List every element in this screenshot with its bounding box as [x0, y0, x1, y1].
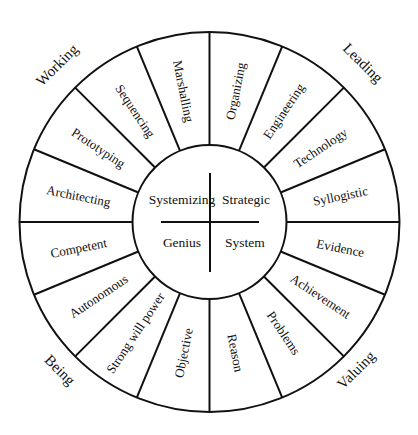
segment-label: Objective	[171, 326, 196, 379]
segment-label: Autonomous	[66, 271, 130, 321]
segment-label: Evidence	[315, 236, 366, 260]
outer-quadrant-label: Being	[42, 352, 79, 389]
core-quadrant-label: Strategic	[222, 192, 270, 207]
core-quadrant-label: Systemizing	[149, 192, 216, 207]
segment-label: Syllogistic	[312, 183, 370, 209]
segment-label: Reason	[224, 333, 246, 374]
segment-label: Architecting	[45, 182, 112, 209]
core-quadrant-label: System	[225, 235, 265, 250]
segment-label: Strong will power	[103, 289, 168, 376]
segment-label: Engineering	[260, 80, 308, 142]
segment-label: Marshalling	[170, 59, 197, 124]
core-quadrant-label: Genius	[163, 235, 201, 250]
outer-quadrant-label: Working	[33, 41, 82, 90]
segment-label: Competent	[49, 235, 108, 261]
outer-quadrant-label: Leading	[340, 40, 386, 86]
segment-label: Problems	[264, 308, 304, 357]
wheel-diagram: Systemizing Strategic Genius System Orga…	[0, 0, 418, 435]
segment-label: Organizing	[222, 61, 248, 122]
